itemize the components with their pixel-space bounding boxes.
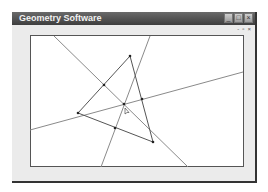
geometry-point[interactable] [77,112,80,115]
geometry-point[interactable] [114,127,117,130]
geometry-point[interactable] [129,55,132,58]
geometry-drawing[interactable] [0,0,268,192]
geometry-point[interactable] [141,98,144,101]
geometry-point[interactable] [103,84,106,87]
geometry-point[interactable] [152,141,155,144]
geometry-point[interactable] [123,103,126,106]
construction-line[interactable] [54,36,188,167]
